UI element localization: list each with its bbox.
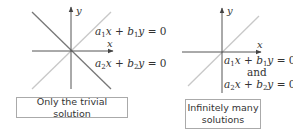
left-x-axis-label: x [107, 39, 113, 49]
left-y-axis-label: y [76, 6, 82, 16]
right-and-connector: and [247, 67, 267, 78]
right-x-axis-label: x [257, 40, 263, 50]
left-caption-box: Only the trivial solution [16, 97, 128, 118]
right-equation-2: a2x + b2y = 0 [224, 79, 293, 92]
right-caption-line-1: Infinitely many [187, 102, 258, 114]
left-equation-2: a2x + b2y = 0 [95, 58, 166, 71]
right-y-axis-label: y [227, 6, 233, 16]
right-caption-line-2: solutions [202, 114, 245, 126]
left-equation-1: a1x + b1y = 0 [95, 26, 166, 39]
left-panel-graph [32, 7, 113, 89]
right-caption-box: Infinitely many solutions [185, 99, 261, 129]
left-caption-text: Only the trivial solution [17, 96, 127, 120]
